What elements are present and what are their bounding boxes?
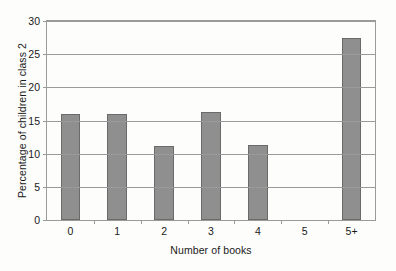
y-tick-label: 20: [12, 82, 47, 93]
x-tick-label: 1: [114, 226, 120, 237]
x-tick-mark: [141, 220, 142, 224]
bar: [154, 146, 174, 220]
y-tick-label: 5: [12, 182, 47, 193]
x-tick-mark: [281, 220, 282, 224]
plot-area: 0510152025300123455+: [46, 20, 376, 221]
gridline: [47, 54, 375, 55]
bar: [248, 145, 268, 220]
x-tick-label: 2: [161, 226, 167, 237]
y-tick-label: 25: [12, 49, 47, 60]
bar-chart: Percentage of children in class 2 051015…: [0, 0, 396, 271]
y-tick-label: 10: [12, 149, 47, 160]
gridline: [47, 87, 375, 88]
gridline: [47, 121, 375, 122]
x-tick-label: 5+: [346, 226, 358, 237]
bar: [107, 114, 127, 220]
x-tick-label: 4: [255, 226, 261, 237]
y-tick-label: 0: [12, 215, 47, 226]
bar: [61, 114, 81, 220]
x-tick-label: 5: [302, 226, 308, 237]
bar: [201, 112, 221, 220]
x-tick-label: 3: [208, 226, 214, 237]
x-tick-mark: [188, 220, 189, 224]
x-tick-mark: [328, 220, 329, 224]
x-tick-mark: [234, 220, 235, 224]
bar: [342, 38, 362, 220]
x-tick-mark: [94, 220, 95, 224]
y-tick-label: 30: [12, 16, 47, 27]
gridline: [47, 21, 375, 22]
gridline: [47, 187, 375, 188]
y-tick-label: 15: [12, 116, 47, 127]
x-tick-label: 0: [68, 226, 74, 237]
gridline: [47, 154, 375, 155]
x-axis-label: Number of books: [46, 244, 376, 256]
